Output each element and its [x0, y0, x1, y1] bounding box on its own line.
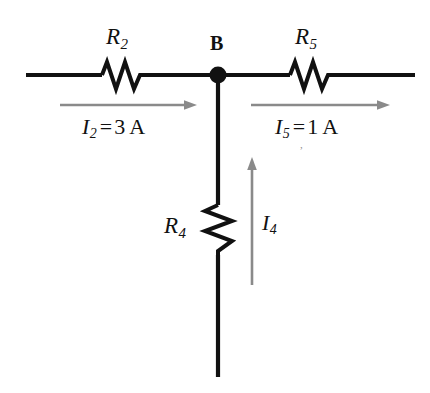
- current-label-i2-subscript: 2: [90, 126, 97, 141]
- resistor-label-r4-symbol: R: [164, 213, 178, 238]
- current-label-i5-unit: A: [322, 114, 338, 139]
- resistor-r5-symbol: [290, 62, 332, 89]
- junction-label-b: B: [210, 33, 223, 53]
- current-arrow-i5: [251, 100, 390, 110]
- current-label-i5-symbol: I: [275, 114, 282, 139]
- current-label-i5-equals: =: [293, 114, 305, 139]
- resistor-label-r5-subscript: 5: [310, 36, 318, 52]
- resistor-r2-symbol: [102, 62, 143, 89]
- current-label-i5-value: 1: [307, 114, 318, 139]
- current-label-i4-symbol: I: [262, 210, 269, 235]
- current-label-i2-symbol: I: [82, 114, 89, 139]
- circuit-diagram-canvas: R2 B R5 I2=3A I5=1A , R4 I4: [0, 0, 430, 393]
- current-label-i4: I4: [262, 212, 277, 237]
- current-label-i2-unit: A: [129, 114, 145, 139]
- resistor-label-r5: R5: [295, 25, 317, 52]
- resistor-label-r5-symbol: R: [295, 24, 309, 49]
- current-label-i4-subscript: 4: [270, 222, 277, 237]
- current-label-i5: I5=1A: [275, 116, 338, 141]
- current-label-i2-equals: =: [100, 114, 112, 139]
- circuit-schematic-svg: [0, 0, 430, 393]
- current-label-i2-value: 3: [114, 114, 125, 139]
- junction-dot-b: [210, 67, 227, 84]
- current-arrow-i2: [60, 100, 197, 110]
- current-label-i5-subscript: 5: [283, 126, 290, 141]
- resistor-label-r2-symbol: R: [106, 24, 120, 49]
- current-label-i2: I2=3A: [82, 116, 145, 141]
- resistor-label-r4-subscript: 4: [179, 225, 187, 241]
- resistor-r4-symbol: [205, 205, 232, 255]
- current-arrow-i4: [247, 157, 257, 285]
- resistor-label-r2: R2: [106, 25, 128, 52]
- stray-mark: ,: [300, 138, 303, 150]
- resistor-label-r4: R4: [164, 214, 186, 241]
- resistor-label-r2-subscript: 2: [121, 36, 129, 52]
